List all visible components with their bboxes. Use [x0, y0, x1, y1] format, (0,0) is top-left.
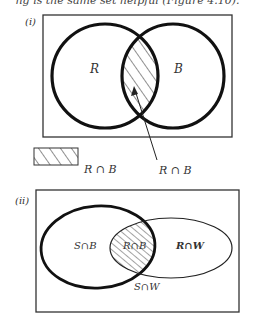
diagram-i: R B R ∩ B R ∩ B (i)	[25, 15, 232, 177]
region-s-and-b-label: S∩B	[74, 240, 97, 251]
arrow-label: R ∩ B	[158, 164, 192, 177]
legend-label: R ∩ B	[83, 163, 117, 176]
region-r-and-b-label: R∩B	[122, 240, 146, 251]
diagram-ii: S∩B R∩B R∩W S∩W (ii)	[15, 190, 239, 312]
region-s-and-w-label: S∩W	[134, 281, 160, 292]
diagram-i-label: (i)	[25, 16, 36, 27]
set-r-label: R	[89, 62, 99, 76]
set-b-label: B	[173, 62, 183, 76]
region-r-and-w-label: R∩W	[175, 240, 206, 251]
legend-swatch-hatched	[34, 148, 78, 165]
diagram-ii-label: (ii)	[15, 195, 29, 206]
venn-diagrams: R B R ∩ B R ∩ B (i) S∩B R∩B R∩W S∩W (ii)	[0, 0, 255, 326]
